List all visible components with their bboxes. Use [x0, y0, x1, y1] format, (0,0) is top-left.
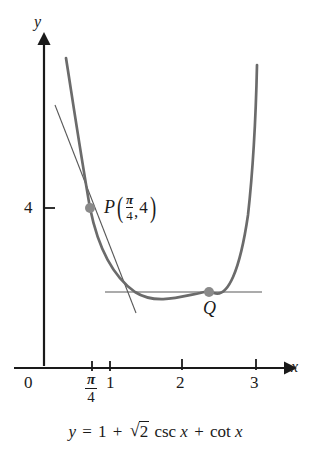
left-paren-icon: (: [117, 192, 123, 222]
radical-sign: √: [130, 420, 140, 441]
fraction-pi-over-4: π 4: [85, 372, 97, 405]
caption-csc: csc: [154, 422, 176, 441]
equation-caption: y = 1 + √ 2 csc x + cot x: [0, 421, 311, 442]
caption-plus-2: +: [194, 422, 204, 441]
point-label-p: P ( π 4 , 4 ): [104, 192, 158, 222]
caption-cot-variable: x: [235, 422, 243, 441]
point-p-y-value: 4: [139, 199, 148, 216]
fraction-denominator: 4: [85, 390, 97, 405]
point-marker-q: [204, 287, 214, 297]
x-tick-label-2: 2: [176, 374, 185, 391]
caption-term-1: 1: [98, 422, 107, 441]
right-paren-icon: ): [150, 192, 156, 222]
point-p-comma: ,: [134, 203, 138, 222]
caption-lhs: y: [68, 422, 76, 441]
caption-plus-1: +: [113, 422, 123, 441]
point-p-name: P: [104, 198, 115, 216]
point-marker-p: [85, 203, 95, 213]
fraction-numerator: π: [126, 193, 133, 206]
fraction-numerator: π: [85, 372, 97, 387]
square-root-icon: √ 2: [130, 421, 150, 442]
radicand-value: 2: [139, 421, 150, 442]
fraction-pi-over-4-in-p: π 4: [126, 193, 133, 222]
graph-figure: y x 0 4 π 4 1 2 3 P ( π 4 , 4 ) Q y = 1 …: [0, 0, 311, 450]
x-tick-label-pi-over-4: π 4: [79, 372, 103, 405]
caption-cot: cot: [210, 422, 231, 441]
graph-svg: [0, 0, 311, 450]
x-tick-label-3: 3: [250, 374, 259, 391]
y-tick-label-4: 4: [24, 199, 33, 216]
origin-label: 0: [24, 374, 33, 391]
y-axis-label: y: [34, 14, 41, 30]
caption-equals: =: [82, 422, 92, 441]
x-tick-label-1: 1: [106, 374, 115, 391]
x-axis-label: x: [291, 359, 298, 375]
curve-y-equals-1-plus-sqrt2-csc-x-plus-cot-x: [66, 58, 257, 299]
fraction-denominator: 4: [126, 209, 133, 222]
point-label-q: Q: [203, 299, 216, 317]
caption-csc-variable: x: [180, 422, 188, 441]
